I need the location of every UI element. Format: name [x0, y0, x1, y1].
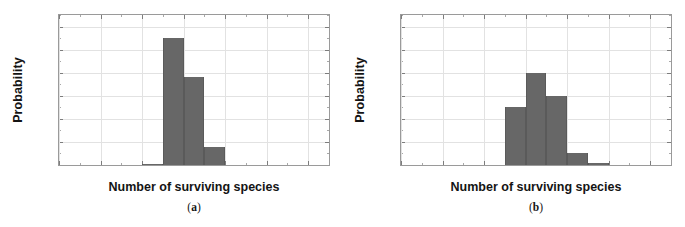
x-axis-tick-top — [101, 15, 102, 19]
x-axis-minor-tick — [422, 163, 423, 165]
gridline-horizontal — [59, 27, 329, 28]
gridline-vertical — [443, 15, 444, 165]
x-axis-minor-tick-top — [588, 15, 589, 17]
y-axis-tick-right — [325, 119, 329, 120]
histogram-bar — [163, 38, 184, 165]
y-axis-tick-right — [325, 50, 329, 51]
x-axis-tick-top — [225, 15, 226, 19]
x-axis-minor-tick-top — [246, 15, 247, 17]
y-axis-tick-right — [667, 96, 671, 97]
panel-a: Probability 0.00.10.20.30.40.50.60246810… — [0, 0, 342, 227]
x-axis-tick — [443, 161, 444, 165]
y-axis-tick-right — [667, 73, 671, 74]
x-axis-minor-tick — [287, 163, 288, 165]
panel-caption-b: (b) — [400, 201, 672, 213]
histogram-bar — [588, 163, 609, 165]
y-axis-minor-tick-right — [327, 84, 329, 85]
y-axis-minor-tick-right — [327, 153, 329, 154]
x-axis-tick — [59, 161, 60, 165]
histogram-bar — [526, 73, 547, 165]
y-axis-tick-right — [325, 27, 329, 28]
x-axis-minor-tick-top — [422, 15, 423, 17]
gridline-vertical — [401, 15, 402, 165]
gridline-vertical — [609, 15, 610, 165]
histogram-bar — [567, 153, 588, 165]
x-axis-minor-tick — [246, 163, 247, 165]
panel-b: Probability 0.00.10.20.30.40.50.60246810… — [342, 0, 685, 227]
x-axis-minor-tick-top — [505, 15, 506, 17]
y-axis-minor-tick-right — [327, 107, 329, 108]
x-axis-minor-tick — [629, 163, 630, 165]
x-axis-minor-tick-top — [463, 15, 464, 17]
x-axis-title-a: Number of surviving species — [58, 180, 330, 194]
gridline-vertical — [567, 15, 568, 165]
histogram-bar — [142, 164, 163, 165]
x-axis-title-b: Number of surviving species — [400, 180, 672, 194]
histogram-bar — [505, 107, 526, 165]
x-axis-minor-tick-top — [287, 15, 288, 17]
panel-caption-a: (a) — [58, 201, 330, 213]
x-axis-tick — [484, 161, 485, 165]
plot-inner-a: 0.00.10.20.30.40.50.6024681012 — [59, 15, 329, 165]
x-axis-tick — [308, 161, 309, 165]
x-axis-tick-top — [484, 15, 485, 19]
x-axis-minor-tick — [80, 163, 81, 165]
y-axis-minor-tick-right — [669, 61, 671, 62]
gridline-horizontal — [59, 73, 329, 74]
y-axis-tick-right — [667, 27, 671, 28]
panel-caption-letter-b: b — [533, 201, 539, 213]
x-axis-tick-top — [308, 15, 309, 19]
y-axis-title-label-a: Probability — [11, 57, 25, 123]
gridline-vertical — [484, 15, 485, 165]
x-axis-minor-tick-top — [163, 15, 164, 17]
y-axis-tick-right — [667, 119, 671, 120]
x-axis-tick-top — [267, 15, 268, 19]
x-axis-tick-top — [526, 15, 527, 19]
gridline-vertical — [308, 15, 309, 165]
x-axis-tick-top — [59, 15, 60, 19]
x-axis-minor-tick-top — [546, 15, 547, 17]
x-axis-tick-top — [184, 15, 185, 19]
gridline-vertical — [59, 15, 60, 165]
histogram-figure: Probability 0.00.10.20.30.40.50.60246810… — [0, 0, 685, 227]
gridline-vertical — [142, 15, 143, 165]
y-axis-tick-right — [667, 50, 671, 51]
x-axis-tick-top — [443, 15, 444, 19]
x-axis-tick-top — [567, 15, 568, 19]
y-axis-minor-tick-right — [327, 61, 329, 62]
plot-area-b: 0.00.10.20.30.40.50.6024681012 — [400, 14, 672, 166]
gridline-vertical — [267, 15, 268, 165]
gridline-vertical — [225, 15, 226, 165]
y-axis-tick-right — [325, 142, 329, 143]
y-axis-minor-tick-right — [669, 38, 671, 39]
x-axis-tick-top — [650, 15, 651, 19]
x-axis-minor-tick-top — [629, 15, 630, 17]
gridline-vertical — [101, 15, 102, 165]
x-axis-tick — [101, 161, 102, 165]
y-axis-minor-tick-right — [669, 130, 671, 131]
y-axis-title-b: Probability — [348, 0, 372, 180]
y-axis-minor-tick-right — [669, 153, 671, 154]
y-axis-minor-tick-right — [327, 38, 329, 39]
x-axis-tick — [650, 161, 651, 165]
x-axis-minor-tick-top — [121, 15, 122, 17]
y-axis-minor-tick-right — [669, 107, 671, 108]
gridline-horizontal — [59, 50, 329, 51]
gridline-horizontal — [401, 27, 671, 28]
gridline-vertical — [650, 15, 651, 165]
y-axis-tick-right — [667, 142, 671, 143]
x-axis-minor-tick — [121, 163, 122, 165]
y-axis-tick-right — [325, 96, 329, 97]
histogram-bar — [546, 96, 567, 165]
x-axis-tick-top — [609, 15, 610, 19]
x-axis-tick-top — [401, 15, 402, 19]
x-axis-minor-tick — [463, 163, 464, 165]
y-axis-title-a: Probability — [6, 0, 30, 180]
y-axis-tick-right — [325, 73, 329, 74]
x-axis-tick — [401, 161, 402, 165]
plot-area-a: 0.00.10.20.30.40.50.6024681012 — [58, 14, 330, 166]
panel-caption-letter-a: a — [191, 201, 197, 213]
x-axis-minor-tick-top — [204, 15, 205, 17]
x-axis-minor-tick-top — [80, 15, 81, 17]
x-axis-tick — [225, 161, 226, 165]
